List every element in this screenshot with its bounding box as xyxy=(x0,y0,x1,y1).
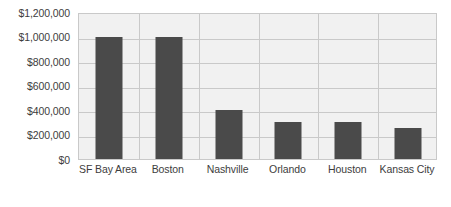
x-axis-tick-label: SF Bay Area xyxy=(78,163,138,177)
bar[interactable] xyxy=(275,122,302,159)
y-axis-tick-label: $800,000 xyxy=(0,57,70,68)
bar[interactable] xyxy=(335,122,362,159)
bar-chart: $0$200,000$400,000$600,000$800,000$1,000… xyxy=(0,0,451,207)
y-axis-tick-label: $400,000 xyxy=(0,106,70,117)
bar-slot xyxy=(199,14,259,159)
x-axis: SF Bay AreaBostonNashvilleOrlandoHouston… xyxy=(78,163,437,207)
x-axis-tick-label: Nashville xyxy=(198,163,258,177)
bar[interactable] xyxy=(95,37,122,160)
x-axis-tick-label: Kansas City xyxy=(377,163,437,177)
y-axis-tick-label: $600,000 xyxy=(0,81,70,92)
y-axis: $0$200,000$400,000$600,000$800,000$1,000… xyxy=(0,0,74,207)
x-axis-tick-label: Houston xyxy=(317,163,377,177)
bar-slot xyxy=(139,14,199,159)
y-axis-tick-label: $1,200,000 xyxy=(0,8,70,19)
x-axis-tick-label: Boston xyxy=(138,163,198,177)
bar[interactable] xyxy=(215,110,242,159)
bars-layer xyxy=(79,14,436,159)
bar[interactable] xyxy=(395,128,422,159)
bar-slot xyxy=(378,14,438,159)
bar-slot xyxy=(79,14,139,159)
y-axis-tick-label: $0 xyxy=(0,155,70,166)
x-axis-tick-label: Orlando xyxy=(258,163,318,177)
y-axis-tick-label: $1,000,000 xyxy=(0,32,70,43)
bar-slot xyxy=(318,14,378,159)
plot-area xyxy=(78,13,437,160)
bar[interactable] xyxy=(155,37,182,160)
y-axis-tick-label: $200,000 xyxy=(0,130,70,141)
bar-slot xyxy=(259,14,319,159)
